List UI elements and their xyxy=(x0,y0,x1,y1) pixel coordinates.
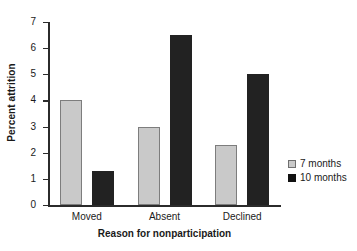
y-axis-tick: 7 xyxy=(43,22,48,23)
legend-item[interactable]: 7 months xyxy=(288,157,347,171)
y-axis-tick: 4 xyxy=(43,100,48,101)
x-axis-category-label: Declined xyxy=(223,211,262,222)
bar-absent-10-months[interactable] xyxy=(170,35,192,205)
bar-chart: Percent attrition 01234567 MovedAbsentDe… xyxy=(0,0,357,251)
x-axis-category-label: Absent xyxy=(149,211,180,222)
plot-area: 01234567 MovedAbsentDeclined xyxy=(48,22,281,205)
legend-item-label: 10 months xyxy=(300,173,347,183)
x-axis-line xyxy=(48,205,281,207)
legend-item-label: 7 months xyxy=(300,159,341,169)
bar-moved-7-months[interactable] xyxy=(60,100,82,205)
x-axis-category-label: Moved xyxy=(72,211,102,222)
y-axis-tick: 1 xyxy=(43,179,48,180)
y-axis-title: Percent attrition xyxy=(0,0,22,205)
y-axis-title-text: Percent attrition xyxy=(6,63,17,141)
x-axis-title: Reason for nonparticipation xyxy=(48,228,281,239)
y-axis-tick-label: 6 xyxy=(30,43,36,53)
y-axis-line xyxy=(48,22,50,205)
bar-declined-7-months[interactable] xyxy=(215,145,237,205)
legend-item[interactable]: 10 months xyxy=(288,171,347,185)
y-axis-tick: 2 xyxy=(43,153,48,154)
y-axis-tick: 6 xyxy=(43,48,48,49)
y-axis-tick-label: 4 xyxy=(30,95,36,105)
y-axis-tick: 5 xyxy=(43,74,48,75)
legend-swatch-icon xyxy=(288,160,296,168)
y-axis-tick: 3 xyxy=(43,127,48,128)
y-axis-tick-label: 5 xyxy=(30,69,36,79)
bar-declined-10-months[interactable] xyxy=(247,74,269,205)
y-axis-tick-label: 3 xyxy=(30,122,36,132)
legend: 7 months 10 months xyxy=(288,157,347,185)
y-axis-tick-label: 1 xyxy=(30,174,36,184)
bar-moved-10-months[interactable] xyxy=(92,171,114,205)
legend-swatch-icon xyxy=(288,174,296,182)
y-axis-tick-label: 0 xyxy=(30,200,36,210)
y-axis-tick-label: 7 xyxy=(30,17,36,27)
y-axis-tick: 0 xyxy=(43,205,48,206)
y-axis-tick-label: 2 xyxy=(30,148,36,158)
bar-absent-7-months[interactable] xyxy=(138,127,160,205)
